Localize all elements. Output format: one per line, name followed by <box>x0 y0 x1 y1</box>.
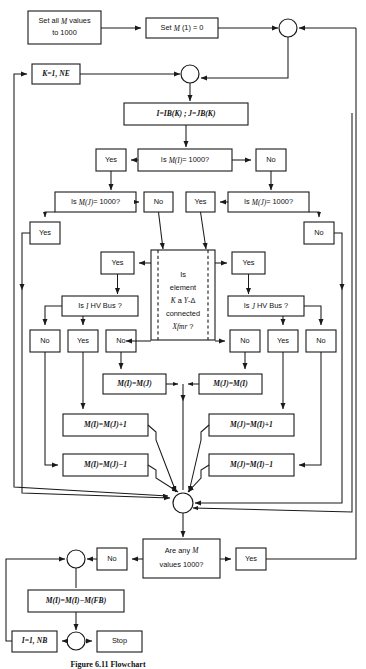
box-set-m1-zero-label: Set M (1) = 0 <box>161 23 204 32</box>
box-yes-left-3-label: Yes <box>111 258 123 267</box>
box-mi-eq-mj-plus1-label: M(I)=M(J)+1 <box>83 420 127 429</box>
junction-circle-b <box>181 65 199 83</box>
box-set-all-m-label-1: Set all M values <box>38 16 91 25</box>
edge-yesfar-left-down <box>22 233 30 290</box>
box-no-final-label: No <box>107 554 116 563</box>
box-i-1-nb-label: I=1, NB <box>21 636 47 645</box>
edge-minus1-left-to-junction-c <box>148 465 178 492</box>
box-no-1-label: No <box>266 155 275 164</box>
box-center-question-line4: connected <box>166 309 200 318</box>
box-mj-eq-mi-label: M(J)=M(I) <box>212 379 248 388</box>
edge-minus1-right-to-junction-c <box>188 465 209 492</box>
box-yes-right-2-label: Yes <box>194 197 206 206</box>
edge-plus1-right-to-junction-c <box>189 425 209 492</box>
junction-circle-d <box>67 550 85 568</box>
edge-junction-a-down-to-junction-b <box>201 37 288 78</box>
box-no-left-2-label: No <box>154 197 163 206</box>
edge-isjhv-to-no-f <box>304 306 321 325</box>
box-is-mj-1000-left-label: Is M(J)= 1000? <box>71 197 120 206</box>
box-is-mj-1000-right-label: Is M(J)= 1000? <box>244 197 293 206</box>
box-yes-e-label: Yes <box>277 336 289 345</box>
edge-noleft2-to-center <box>159 212 164 249</box>
box-no-a-label: No <box>40 336 49 345</box>
box-yes-1-label: Yes <box>105 155 117 164</box>
box-center-question-line1: Is <box>180 270 186 279</box>
box-are-any-m-1000-line2: values 1000? <box>160 560 204 569</box>
box-yes-right-3-label: Yes <box>242 258 254 267</box>
box-no-f-label: No <box>316 336 325 345</box>
edge-nofar-right-down <box>334 233 342 290</box>
box-yes-final-label: Yes <box>245 554 257 563</box>
box-no-d-label: No <box>240 336 249 345</box>
box-mi-eq-mj-minus1-label: M(I)=M(J)−1 <box>83 460 127 469</box>
box-is-mi-1000-label: Is M(I)= 1000? <box>161 155 209 164</box>
edge-yesright2-to-center <box>201 212 207 249</box>
box-no-far-right-label: No <box>314 228 323 237</box>
edge-no-a-to-minus1-left <box>45 352 58 465</box>
box-set-all-m-label-2: to 1000 <box>52 28 77 37</box>
edge-ismjleft-to-yesfar <box>45 212 55 217</box>
flowchart-canvas: Set all M values to 1000 Set M (1) = 0 K… <box>0 0 366 669</box>
edge-loop-into-k <box>14 74 27 113</box>
edge-i1nb-loop-to-junction-d <box>6 559 20 641</box>
box-are-any-m-1000-line1: Are any M <box>165 546 200 555</box>
edge-isihv-to-no-a <box>45 306 62 325</box>
figure-caption: Figure 6.11 Flowchart <box>70 660 146 669</box>
box-is-j-hv-bus-label: Is J HV Bus ? <box>244 301 288 310</box>
junction-circle-c <box>173 493 193 513</box>
box-mj-eq-mi-plus1-label: M(J)=M(I)+1 <box>229 420 273 429</box>
box-are-any-m-1000 <box>143 539 220 578</box>
flowchart-figure: Set all M values to 1000 Set M (1) = 0 K… <box>0 0 366 669</box>
box-stop-label: Stop <box>112 636 127 645</box>
edge-ismjright-to-nofar <box>309 212 319 217</box>
box-mi-minus-mfb-label: M(I)=M(I)−M(FB) <box>45 596 107 605</box>
box-yes-far-left-label: Yes <box>39 228 51 237</box>
junction-circle-e <box>67 632 85 650</box>
box-center-question-line3: K a Y-Δ <box>170 296 196 305</box>
box-center-question-line5: Xfmr ? <box>172 322 194 331</box>
box-center-question-line2: element <box>170 283 196 292</box>
box-ib-jb-label: I=IB(K) ; J=JB(K) <box>156 109 216 118</box>
box-is-i-hv-bus-label: Is I HV Bus ? <box>78 301 122 310</box>
box-no-c-label: No <box>116 336 125 345</box>
box-mj-eq-mi-minus1-label: M(J)=M(I)−1 <box>229 460 273 469</box>
edge-no-f-to-minus1-right <box>299 352 321 465</box>
junction-circle-a <box>279 19 297 37</box>
box-k-loop-label: K=1, NE <box>41 69 70 78</box>
box-yes-b-label: Yes <box>77 336 89 345</box>
box-mi-eq-mj-label: M(I)=M(J) <box>116 379 152 388</box>
